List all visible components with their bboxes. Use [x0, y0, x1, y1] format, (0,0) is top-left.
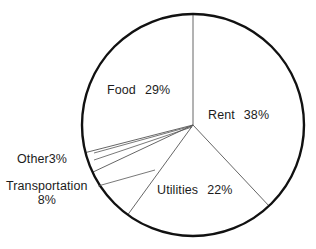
slice-label-food: Food29% [107, 83, 170, 97]
slice-label-utilities: Utilities22% [157, 183, 233, 197]
slice-label-transportation-value: 8% [6, 193, 88, 207]
pie-chart-figure: TYPICAL WELFARE RECIPIENT Food29% Rent38… [0, 0, 316, 249]
slice-label-transportation: Transportation 8% [6, 179, 88, 207]
slice-label-other: Other3% [17, 152, 67, 166]
slice-label-rent: Rent38% [208, 108, 269, 122]
slice-label-other-value: 3% [49, 152, 67, 166]
slice-label-transportation-name: Transportation [6, 179, 88, 193]
slice-label-utilities-value: 22% [207, 183, 232, 197]
slice-label-food-value: 29% [145, 83, 170, 97]
slice-label-rent-value: 38% [244, 108, 269, 122]
slice-label-rent-name: Rent [208, 108, 235, 122]
slice-label-other-name: Other [17, 152, 49, 166]
slice-label-food-name: Food [107, 83, 136, 97]
pie-chart-graphic [0, 0, 316, 249]
slice-label-utilities-name: Utilities [157, 183, 198, 197]
